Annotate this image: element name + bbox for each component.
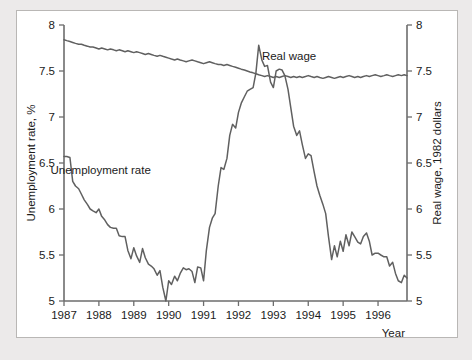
x-axis-tick-label: 1994 — [295, 309, 321, 321]
y-axis-right-tick-label: 6 — [416, 203, 422, 215]
y-axis-right-tick-label: 7.5 — [416, 65, 432, 77]
x-axis-tick-label: 1989 — [121, 309, 147, 321]
x-axis-tick-label: 1987 — [51, 309, 77, 321]
x-axis-tick-label: 1995 — [330, 309, 356, 321]
chart-plot-area: 55.566.577.5855.566.577.5819871988198919… — [17, 11, 457, 337]
y-axis-right-tick-label: 6.5 — [416, 157, 432, 169]
series-annotation-real-wage: Real wage — [262, 50, 316, 62]
y-axis-left-tick-label: 7 — [49, 111, 55, 123]
x-axis-title: Year — [382, 327, 405, 337]
y-axis-left-tick-label: 5 — [49, 295, 55, 307]
y-axis-left-title: Unemployment rate, % — [25, 105, 37, 222]
series-line-real-wage — [64, 40, 407, 79]
series-annotation-unemployment-rate: Unemployment rate — [50, 164, 150, 176]
page-background: 55.566.577.5855.566.577.5819871988198919… — [0, 0, 472, 360]
y-axis-left-tick-label: 8 — [49, 19, 55, 31]
y-axis-left-tick-label: 7.5 — [39, 65, 55, 77]
x-axis-tick-label: 1990 — [156, 309, 182, 321]
x-axis-tick-label: 1996 — [365, 309, 391, 321]
figure-card: 55.566.577.5855.566.577.5819871988198919… — [16, 10, 458, 338]
y-axis-right-tick-label: 5.5 — [416, 249, 432, 261]
y-axis-right-tick-label: 5 — [416, 295, 422, 307]
x-axis-tick-label: 1993 — [261, 309, 287, 321]
y-axis-left-tick-label: 6 — [49, 203, 55, 215]
x-axis-tick-label: 1992 — [226, 309, 252, 321]
y-axis-right-title: Real wage, 1982 dollars — [431, 101, 443, 225]
y-axis-right-tick-label: 8 — [416, 19, 422, 31]
x-axis-tick-label: 1991 — [191, 309, 217, 321]
y-axis-right-tick-label: 7 — [416, 111, 422, 123]
x-axis-tick-label: 1988 — [86, 309, 112, 321]
y-axis-left-tick-label: 5.5 — [39, 249, 55, 261]
